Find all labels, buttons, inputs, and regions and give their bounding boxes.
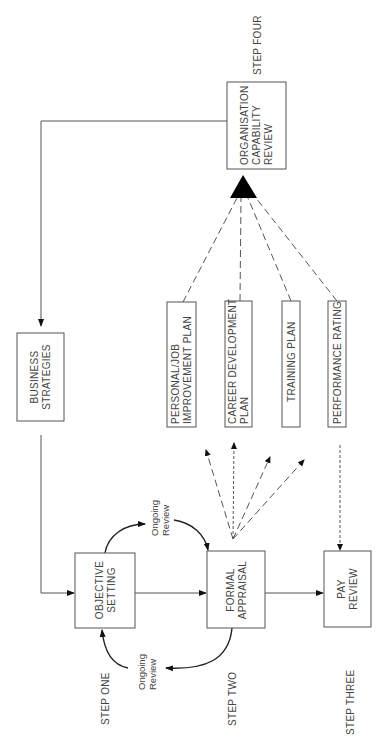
svg-text:PLAN: PLAN (239, 397, 250, 424)
svg-text:IMPROVEMENT PLAN: IMPROVEMENT PLAN (182, 316, 193, 424)
svg-text:CAPABILITY: CAPABILITY (251, 105, 262, 165)
svg-text:STEP FOUR: STEP FOUR (252, 15, 263, 75)
svg-text:CAREER DEVELOPMENT: CAREER DEVELOPMENT (227, 299, 238, 424)
feedback-connector (41, 121, 227, 326)
ongoing-review-bottom-label: Ongoing Review (136, 654, 158, 690)
ongoing-review-top-arrow-2 (174, 520, 208, 550)
svg-text:TRAINING PLAN: TRAINING PLAN (286, 321, 297, 402)
svg-text:REVIEW: REVIEW (348, 568, 359, 610)
ongoing-review-top-arrow (105, 524, 145, 553)
svg-text:OBJECTIVE: OBJECTIVE (94, 561, 105, 619)
svg-text:STEP TWO: STEP TWO (227, 672, 238, 726)
performance-rating-label: PERFORMANCE RATING (332, 301, 343, 424)
convergence-triangle-icon (230, 175, 257, 198)
diagram-canvas: BUSINESS STRATEGIES OBJECTIVE SETTING FO… (0, 0, 387, 743)
objective-setting-label: OBJECTIVE SETTING (94, 561, 117, 619)
svg-text:PAY: PAY (336, 579, 347, 598)
svg-text:Ongoing: Ongoing (149, 500, 160, 536)
svg-text:Ongoing: Ongoing (136, 654, 147, 690)
business-strategies-label: BUSINESS STRATEGIES (29, 344, 52, 410)
svg-text:BUSINESS: BUSINESS (29, 350, 40, 403)
ongoing-review-top-label: Ongoing Review (149, 500, 171, 536)
step-two-label: STEP TWO (227, 672, 238, 726)
svg-text:APPRAISAL: APPRAISAL (237, 561, 248, 619)
formal-appraisal-box[interactable] (207, 551, 265, 628)
svg-text:REVIEW: REVIEW (263, 123, 274, 165)
training-plan-label: TRAINING PLAN (286, 321, 297, 402)
ongoing-review-bottom-arrow (166, 628, 232, 668)
svg-text:PERFORMANCE RATING: PERFORMANCE RATING (332, 301, 343, 424)
svg-text:SETTING: SETTING (106, 567, 117, 612)
formal-appraisal-label: FORMAL APPRAISAL (225, 561, 248, 619)
svg-text:STRATEGIES: STRATEGIES (41, 344, 52, 410)
step-one-label: STEP ONE (100, 672, 111, 725)
ongoing-review-bottom-arrow-2 (102, 630, 128, 668)
svg-text:STEP ONE: STEP ONE (100, 672, 111, 725)
svg-text:ORGANISATION: ORGANISATION (239, 85, 250, 165)
strategies-to-objective-connector (41, 435, 74, 593)
plans-to-capability-lines (183, 198, 337, 302)
svg-text:STEP THREE: STEP THREE (345, 670, 356, 735)
svg-text:Review: Review (160, 505, 171, 536)
step-four-label: STEP FOUR (252, 15, 263, 75)
svg-text:FORMAL: FORMAL (225, 568, 236, 612)
svg-text:PERSONAL/JOB: PERSONAL/JOB (170, 344, 181, 424)
step-three-label: STEP THREE (345, 670, 356, 735)
svg-text:Review: Review (147, 659, 158, 690)
objective-setting-box[interactable] (75, 553, 135, 628)
appraisal-to-plans-arrows (206, 443, 304, 539)
